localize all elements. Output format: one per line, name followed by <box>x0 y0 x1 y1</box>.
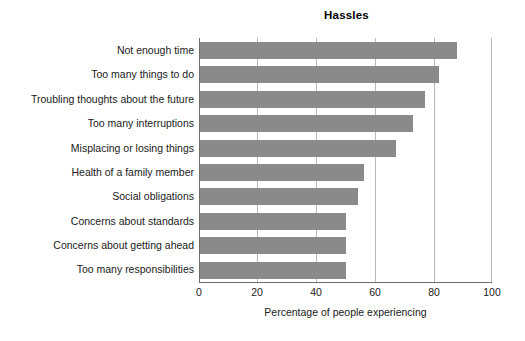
bar-too-many-responsibilities[interactable] <box>200 262 346 279</box>
cat-row: Health of a family member <box>0 160 194 184</box>
chart-figure: Hassles Not enough time Too many things … <box>0 0 525 341</box>
cat-row: Not enough time <box>0 38 194 62</box>
cat-row: Social obligations <box>0 184 194 208</box>
cat-row: Concerns about getting ahead <box>0 233 194 257</box>
y-tick-label: Too many interruptions <box>88 118 194 129</box>
bar-troubling-thoughts-about-the-future[interactable] <box>200 91 425 108</box>
cat-row: Misplacing or losing things <box>0 136 194 160</box>
y-tick-label: Concerns about getting ahead <box>53 240 194 251</box>
y-tick-label: Not enough time <box>117 45 194 56</box>
x-axis-title: Percentage of people experiencing <box>199 306 492 318</box>
cat-row: Troubling thoughts about the future <box>0 87 194 111</box>
bar-row <box>200 111 492 135</box>
x-tick-label-60: 60 <box>369 286 381 298</box>
y-tick-label: Troubling thoughts about the future <box>31 94 194 105</box>
bar-row <box>200 160 492 184</box>
y-tick-label: Too many things to do <box>91 69 194 80</box>
x-tick-label-20: 20 <box>251 286 263 298</box>
y-tick-label: Health of a family member <box>71 167 194 178</box>
bar-social-obligations[interactable] <box>200 188 358 205</box>
y-tick-label: Social obligations <box>112 191 194 202</box>
cat-row: Concerns about standards <box>0 209 194 233</box>
cat-row: Too many responsibilities <box>0 258 194 282</box>
bar-row <box>200 209 492 233</box>
bar-row <box>200 87 492 111</box>
bar-misplacing-or-losing-things[interactable] <box>200 140 396 157</box>
y-tick-label: Too many responsibilities <box>77 264 194 275</box>
bar-too-many-things-to-do[interactable] <box>200 66 439 83</box>
bar-too-many-interruptions[interactable] <box>200 115 413 132</box>
bar-row <box>200 258 492 282</box>
cat-row: Too many interruptions <box>0 111 194 135</box>
bar-row <box>200 38 492 62</box>
bar-row <box>200 136 492 160</box>
x-tick-label-100: 100 <box>483 286 501 298</box>
bar-health-of-a-family-member[interactable] <box>200 164 364 181</box>
bar-row <box>200 62 492 86</box>
chart-title: Hassles <box>0 9 525 21</box>
bar-concerns-about-standards[interactable] <box>200 213 346 230</box>
x-axis-line <box>199 282 492 283</box>
x-tick-label-0: 0 <box>196 286 202 298</box>
y-tick-label: Concerns about standards <box>71 216 194 227</box>
bar-row <box>200 184 492 208</box>
y-tick-label: Misplacing or losing things <box>71 143 194 154</box>
x-tick-label-40: 40 <box>310 286 322 298</box>
bar-not-enough-time[interactable] <box>200 42 457 59</box>
bar-series <box>200 38 492 282</box>
bar-row <box>200 233 492 257</box>
y-axis-tick-labels: Not enough time Too many things to do Tr… <box>0 38 194 282</box>
bar-concerns-about-getting-ahead[interactable] <box>200 237 346 254</box>
cat-row: Too many things to do <box>0 62 194 86</box>
x-tick-label-80: 80 <box>428 286 440 298</box>
